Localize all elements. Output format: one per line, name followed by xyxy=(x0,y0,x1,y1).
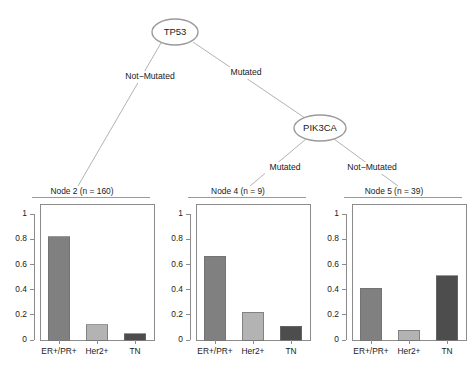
y-tick-label: 1 xyxy=(334,208,339,218)
bar-Her2 xyxy=(398,330,419,340)
y-tick-label: 0.8 xyxy=(15,233,27,243)
tree-edge-inner2 xyxy=(193,42,305,118)
x-tick-label: TN xyxy=(285,346,296,356)
y-tick-label: 0 xyxy=(178,334,183,344)
tree-node-label-inner2: PIK3CA xyxy=(303,122,337,133)
x-tick-label: TN xyxy=(441,346,452,356)
panel-title-node2: Node 2 (n = 160) xyxy=(6,186,158,197)
bar-Her2 xyxy=(86,325,107,340)
node-panel-node2: Node 2 (n = 160) 00.20.40.60.81ER+/PR+He… xyxy=(6,186,158,376)
decision-tree-graph: Not−MutatedMutatedMutatedNot−MutatedTP53… xyxy=(0,0,476,200)
panel-title-node5: Node 5 (n = 39) xyxy=(318,186,470,197)
y-tick-label: 0.2 xyxy=(15,309,27,319)
barplot-node4: 00.20.40.60.81ER+/PR+Her2+TN xyxy=(162,198,314,376)
x-tick-label: ER+/PR+ xyxy=(41,346,76,356)
node-panel-node5: Node 5 (n = 39) 00.20.40.60.81ER+/PR+Her… xyxy=(318,186,470,376)
decision-tree-figure: Not−MutatedMutatedMutatedNot−MutatedTP53… xyxy=(0,0,476,376)
tree-edge-label-node2: Not−Mutated xyxy=(125,71,175,81)
tree-node-label-root: TP53 xyxy=(164,26,187,37)
y-tick-label: 0.6 xyxy=(327,259,339,269)
node-barplot-row: Node 2 (n = 160) 00.20.40.60.81ER+/PR+He… xyxy=(0,186,476,376)
y-tick-label: 0.4 xyxy=(327,284,339,294)
bar-Her2 xyxy=(242,312,263,340)
x-tick-label: ER+/PR+ xyxy=(197,346,232,356)
tree-edge-label-inner2: Mutated xyxy=(230,67,261,77)
tree-edge-label-node5: Not−Mutated xyxy=(347,162,397,172)
y-tick-label: 0 xyxy=(22,334,27,344)
panel-title-node4: Node 4 (n = 9) xyxy=(162,186,314,197)
x-tick-label: ER+/PR+ xyxy=(353,346,388,356)
bar-TN xyxy=(124,334,145,340)
x-tick-label: Her2+ xyxy=(397,346,420,356)
x-tick-label: Her2+ xyxy=(85,346,108,356)
y-tick-label: 0.6 xyxy=(171,259,183,269)
bar-ERPR xyxy=(48,237,69,340)
bar-TN xyxy=(436,276,457,340)
x-tick-label: TN xyxy=(129,346,140,356)
tree-edge-node2 xyxy=(78,43,161,186)
y-tick-label: 0.2 xyxy=(171,309,183,319)
y-tick-label: 0.4 xyxy=(171,284,183,294)
bar-ERPR xyxy=(360,288,381,340)
barplot-node2: 00.20.40.60.81ER+/PR+Her2+TN xyxy=(6,198,158,376)
x-tick-label: Her2+ xyxy=(241,346,264,356)
y-tick-label: 0.8 xyxy=(327,233,339,243)
tree-edge-label-node4: Mutated xyxy=(269,162,300,172)
y-tick-label: 1 xyxy=(178,208,183,218)
bar-ERPR xyxy=(204,256,225,340)
y-tick-label: 0.6 xyxy=(15,259,27,269)
barplot-node5: 00.20.40.60.81ER+/PR+Her2+TN xyxy=(318,198,470,376)
y-tick-label: 0.2 xyxy=(327,309,339,319)
y-tick-label: 1 xyxy=(22,208,27,218)
node-panel-node4: Node 4 (n = 9) 00.20.40.60.81ER+/PR+Her2… xyxy=(162,186,314,376)
y-tick-label: 0 xyxy=(334,334,339,344)
y-tick-label: 0.8 xyxy=(171,233,183,243)
bar-TN xyxy=(280,326,301,340)
y-tick-label: 0.4 xyxy=(15,284,27,294)
